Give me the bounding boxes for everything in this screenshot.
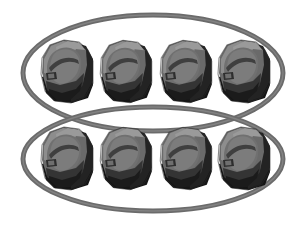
rock-r2-c2: [100, 127, 151, 189]
rock-r1-c4: [218, 40, 270, 103]
rock-r1-c1: [41, 40, 93, 103]
grouped-objects-illustration: [0, 0, 306, 225]
rock-r2-c3: [160, 127, 211, 189]
rock-r2-c1: [41, 127, 93, 190]
rock-r1-c3: [160, 40, 211, 102]
rock-r2-c4: [218, 127, 270, 190]
image-canvas: Eight rock objects grouped into two ring…: [0, 0, 306, 225]
rock-r1-c2: [100, 40, 151, 102]
